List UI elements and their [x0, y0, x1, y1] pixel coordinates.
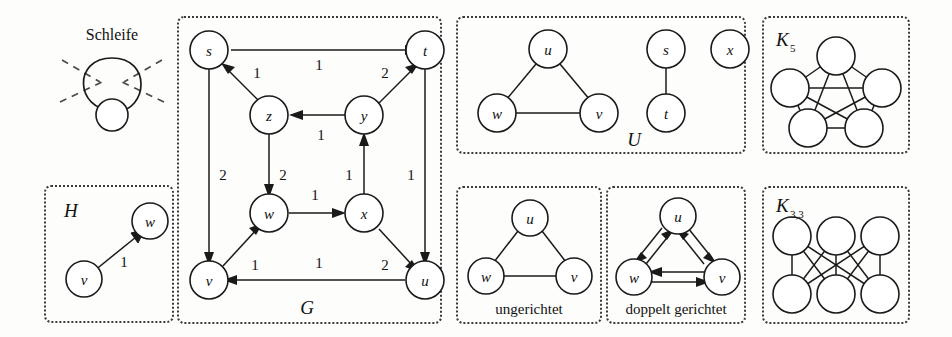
node-v-label: v	[571, 269, 578, 285]
node-w-label: w	[145, 214, 155, 230]
edge-u-w	[506, 64, 536, 100]
panel-graph-u: u w v s t x U	[456, 16, 746, 154]
k33-node-bottom-1	[773, 275, 811, 313]
node-v-label: v	[596, 106, 603, 122]
edge-weight-v-w: 1	[251, 257, 259, 273]
edge-weight-z-s: 1	[253, 65, 261, 81]
k5-node-bottom-left	[789, 109, 827, 147]
edge-weight-s-v: 2	[219, 167, 227, 183]
edge-weight-u-v: 1	[315, 255, 323, 271]
edge-weight-s-t: 1	[315, 57, 323, 73]
graph-u-diagram: u w v s t x U	[458, 18, 744, 152]
graph-k33-diagram: K 3,3	[764, 188, 908, 322]
schleife-diagram: Schleife	[42, 24, 182, 134]
node-v-label: v	[719, 270, 726, 286]
node-w-label: w	[481, 269, 491, 285]
edge-y-z-arrowhead	[289, 110, 303, 120]
schleife-node	[96, 99, 128, 131]
graph-g-diagram: 1 1 2 1 2 2 1	[179, 18, 440, 322]
node-w-label: w	[629, 270, 639, 286]
panel-graph-h: H 1 v w	[44, 185, 174, 323]
graph-k33-label: K	[775, 195, 790, 216]
node-u-label: u	[421, 273, 429, 289]
panel-doppelt-gerichtet: u w v doppelt gerichtet	[606, 186, 746, 324]
node-x-label: x	[360, 206, 368, 222]
graph-k5-diagram: K 5	[764, 18, 908, 152]
edge-v-w	[94, 233, 141, 271]
edge-weight-y-t: 2	[381, 65, 389, 81]
panel-schleife: Schleife	[42, 24, 182, 134]
node-w-label: w	[264, 206, 274, 222]
graph-k5-label: K	[775, 29, 790, 50]
node-u-label: u	[544, 42, 552, 58]
edge-weight-w-x: 1	[311, 187, 319, 203]
edge-weight-x-u: 2	[381, 257, 389, 273]
doppelt-gerichtet-diagram: u w v doppelt gerichtet	[608, 188, 744, 322]
edge-z-s-arrowhead	[221, 63, 235, 74]
k33-node-top-1	[773, 217, 811, 255]
dashed-ray-lower-left	[60, 82, 102, 102]
edge-w-x-arrowhead	[332, 208, 346, 218]
edge-weight-v-w: 1	[120, 254, 128, 270]
graph-u-label: U	[627, 129, 642, 150]
edge-u-v	[560, 64, 590, 100]
node-v-label: v	[81, 272, 88, 288]
ungerichtet-diagram: u w v ungerichtet	[458, 188, 600, 322]
panel-graph-k5: K 5	[762, 16, 910, 154]
k5-node-top	[817, 37, 855, 75]
edge-u-w	[494, 231, 518, 262]
node-z-label: z	[265, 108, 272, 124]
schleife-heading: Schleife	[86, 26, 138, 43]
node-s-label: s	[206, 43, 212, 59]
k33-node-top-2	[817, 217, 855, 255]
k33-node-bottom-2	[817, 275, 855, 313]
graph-k5-subscript: 5	[790, 42, 796, 54]
k33-node-top-3	[861, 217, 899, 255]
doppelt-gerichtet-caption: doppelt gerichtet	[625, 301, 727, 317]
ungerichtet-caption: ungerichtet	[495, 301, 563, 317]
graph-h-diagram: H 1 v w	[46, 187, 172, 321]
k33-node-bottom-3	[861, 275, 899, 313]
panel-graph-k33: K 3,3	[762, 186, 910, 324]
graph-h-label: H	[63, 200, 79, 221]
k5-node-right	[863, 69, 901, 107]
k5-node-left	[771, 69, 809, 107]
node-x-label: x	[726, 42, 734, 58]
edge-weight-t-u: 1	[407, 167, 415, 183]
graph-g-label: G	[300, 297, 314, 318]
panel-graph-g: 1 1 2 1 2 2 1	[177, 16, 442, 324]
graph-k33-subscript: 3,3	[790, 208, 804, 220]
node-v-label: v	[206, 273, 213, 289]
edge-weight-y-z: 1	[317, 127, 325, 143]
edge-weight-z-w: 2	[279, 167, 287, 183]
node-w-label: w	[492, 106, 502, 122]
k5-node-bottom-right	[845, 109, 883, 147]
panel-ungerichtet: u w v ungerichtet	[456, 186, 602, 324]
edge-weight-x-y: 1	[345, 167, 353, 183]
node-s-label: s	[663, 42, 669, 58]
node-u-label: u	[674, 209, 682, 225]
node-y-label: y	[359, 108, 368, 124]
dashed-ray-lower-right	[122, 82, 164, 102]
graph-theory-figure: Schleife H 1 v w	[0, 0, 952, 337]
node-u-label: u	[526, 211, 534, 227]
edge-u-v	[542, 231, 566, 262]
